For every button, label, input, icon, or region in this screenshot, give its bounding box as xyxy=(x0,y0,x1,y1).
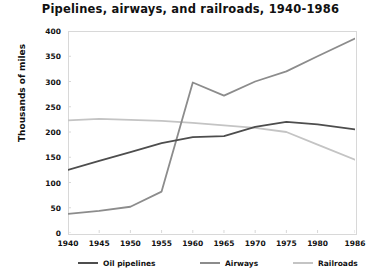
legend-item[interactable]: Oil pipelines xyxy=(78,257,156,269)
y-axis-tick: 350 xyxy=(33,52,61,61)
legend-swatch-icon xyxy=(200,262,220,264)
y-axis-tick: 200 xyxy=(33,128,61,137)
y-axis-tick: 0 xyxy=(33,229,61,238)
legend-item[interactable]: Railroads xyxy=(293,257,358,269)
chart-legend: Oil pipelinesAirwaysRailroads xyxy=(0,255,381,271)
x-axis-tick: 1980 xyxy=(298,239,338,248)
series-line xyxy=(68,39,355,214)
y-axis-tick: 250 xyxy=(33,103,61,112)
y-axis-tick: 50 xyxy=(33,204,61,213)
legend-label: Oil pipelines xyxy=(103,259,156,268)
legend-swatch-icon xyxy=(293,262,313,264)
legend-swatch-icon xyxy=(78,262,98,264)
series-line xyxy=(68,122,355,170)
y-axis-tick: 300 xyxy=(33,78,61,87)
series-line xyxy=(68,119,355,160)
legend-label: Railroads xyxy=(318,259,358,268)
y-axis-label: Thousands of miles xyxy=(17,33,27,153)
y-axis-tick: 100 xyxy=(33,179,61,188)
y-axis-tick: 400 xyxy=(33,27,61,36)
chart-title: Pipelines, airways, and railroads, 1940-… xyxy=(0,2,381,16)
line-chart: Pipelines, airways, and railroads, 1940-… xyxy=(0,0,381,278)
legend-item[interactable]: Airways xyxy=(200,257,258,269)
x-axis-tick: 1986 xyxy=(335,239,375,248)
legend-label: Airways xyxy=(225,259,258,268)
plot-lines xyxy=(68,31,355,233)
y-axis-tick: 150 xyxy=(33,153,61,162)
